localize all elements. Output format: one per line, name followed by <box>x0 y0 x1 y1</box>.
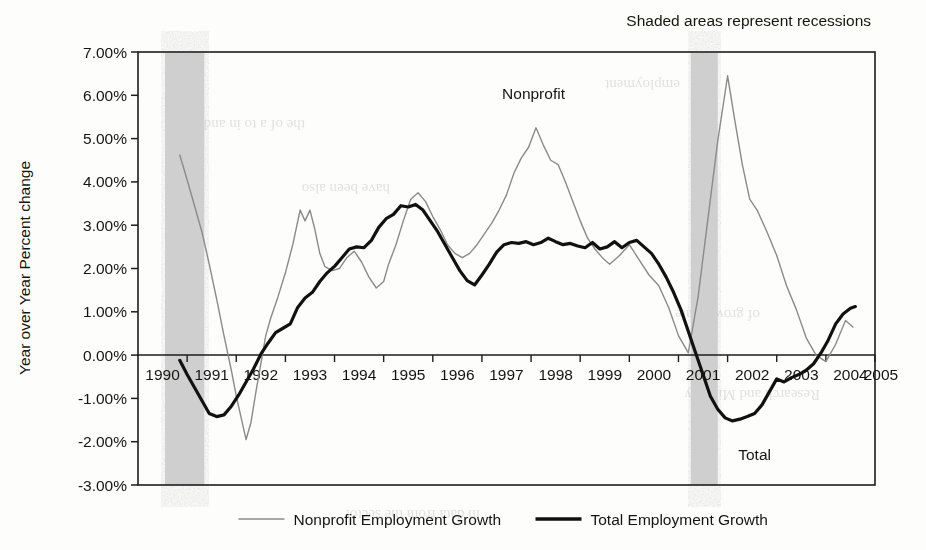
x-tick-label: 1995 <box>391 366 425 383</box>
svg-text:employment: employment <box>604 77 680 93</box>
y-tick-label: 3.00% <box>83 217 127 234</box>
y-tick-label: 1.00% <box>83 303 127 320</box>
y-tick-label: 4.00% <box>83 173 127 190</box>
x-tick-label: 1996 <box>440 366 474 383</box>
legend-label-0: Nonprofit Employment Growth <box>294 511 502 528</box>
employment-growth-chart: ​ the of a to in and have been also of g… <box>0 0 926 550</box>
x-tick-label: 2002 <box>735 366 769 383</box>
x-tick-label: 2000 <box>637 366 672 383</box>
y-tick-label: 6.00% <box>83 87 127 104</box>
svg-text:the of a to in and: the of a to in and <box>203 117 305 133</box>
y-tick-label: -3.00% <box>78 477 127 494</box>
svg-text:have been also: have been also <box>302 181 390 197</box>
x-tick-label: 1994 <box>342 366 377 383</box>
y-tick-label: 0.00% <box>83 347 127 364</box>
x-tick-label: 1999 <box>588 366 622 383</box>
recession-band-1 <box>165 53 204 485</box>
y-tick-label: -1.00% <box>78 390 127 407</box>
legend-label-1: Total Employment Growth <box>591 511 768 528</box>
y-axis-title: Year over Year Percent change <box>16 161 33 375</box>
x-tick-label: 1997 <box>489 366 523 383</box>
x-tick-label: 1990 <box>145 366 180 383</box>
y-tick-label: -2.00% <box>78 433 127 450</box>
recession-band-2 <box>691 53 718 485</box>
x-tick-label: 1991 <box>194 366 228 383</box>
y-tick-label: 2.00% <box>83 260 127 277</box>
x-tick-label: 1998 <box>538 366 572 383</box>
y-tick-label: 5.00% <box>83 130 127 147</box>
x-tick-label: 2005 <box>864 366 898 383</box>
y-tick-label: 7.00% <box>83 44 127 61</box>
annotation-total: Total <box>738 446 771 463</box>
annotation-nonprofit: Nonprofit <box>502 85 566 102</box>
x-tick-label: 1993 <box>293 366 327 383</box>
chart-figure: ​ the of a to in and have been also of g… <box>0 0 926 550</box>
recession-note: Shaded areas represent recessions <box>626 12 871 29</box>
